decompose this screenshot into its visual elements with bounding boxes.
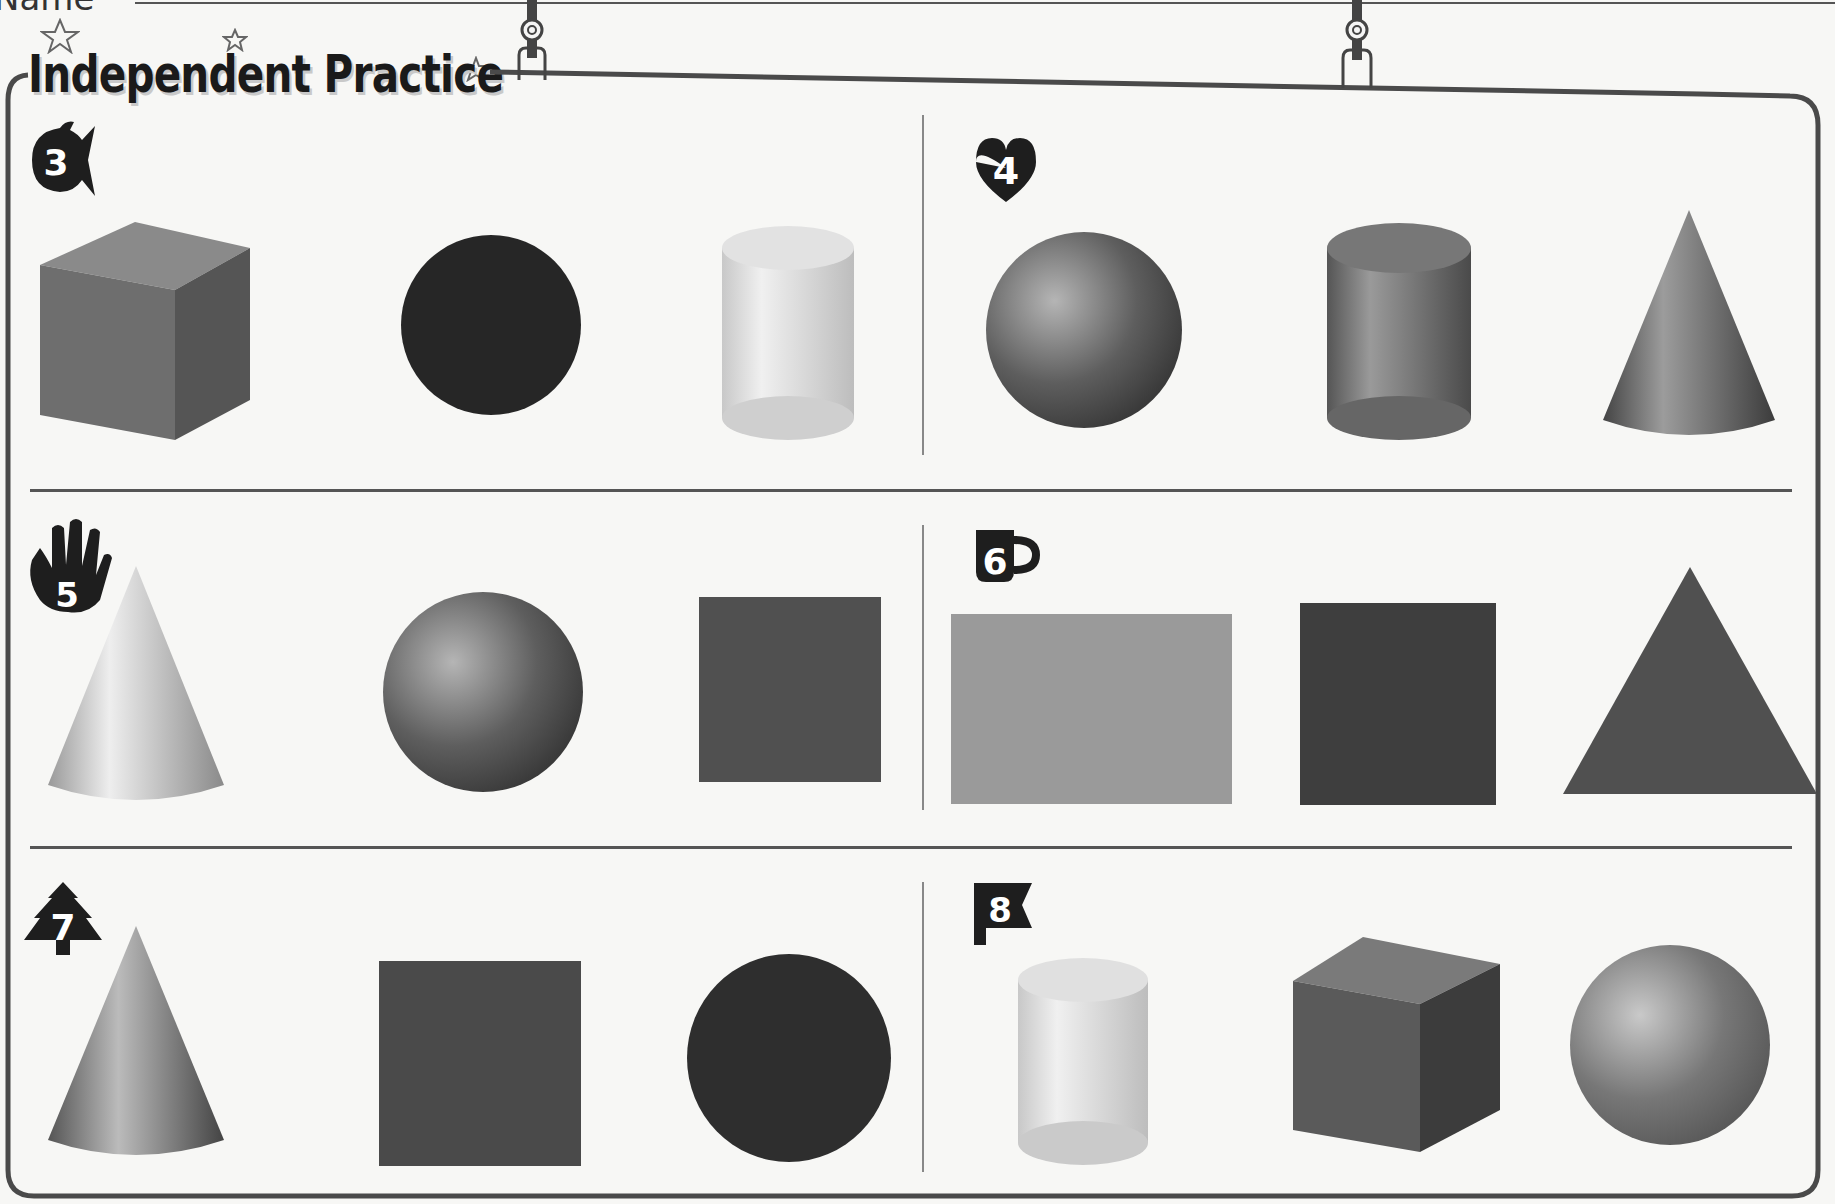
sphere-shape [1570, 945, 1770, 1145]
svg-text:8: 8 [988, 890, 1012, 930]
cube-shape [40, 222, 250, 440]
svg-text:5: 5 [55, 575, 79, 615]
cylinder-shape [1018, 958, 1148, 1165]
fish-icon: 3 [32, 122, 95, 196]
problem-6: 6 [951, 530, 1817, 805]
flag-icon: 8 [974, 883, 1032, 945]
problem-8: 8 [974, 883, 1770, 1165]
svg-text:4: 4 [993, 149, 1019, 193]
heart-icon: 4 [976, 138, 1036, 202]
circle-shape [687, 954, 891, 1162]
cylinder-shape [1327, 223, 1471, 440]
svg-text:3: 3 [43, 142, 68, 183]
svg-text:6: 6 [982, 541, 1007, 582]
mug-icon: 6 [976, 530, 1036, 582]
circle-shape [401, 235, 581, 415]
square-shape [699, 597, 881, 782]
square-shape [1300, 603, 1496, 805]
cone-shape [48, 926, 224, 1155]
problem-4: 4 [976, 138, 1775, 440]
problem-3: 3 [32, 122, 854, 440]
tree-icon: 7 [24, 882, 102, 955]
cube-shape [1293, 937, 1500, 1152]
problem-7: 7 [24, 882, 891, 1166]
problem-5: 5 [30, 519, 881, 800]
svg-text:7: 7 [50, 907, 75, 948]
sphere-shape [383, 592, 583, 792]
triangle-shape [1563, 567, 1817, 794]
rectangle-shape [951, 614, 1232, 804]
sphere-shape [986, 232, 1182, 428]
cone-shape [1603, 210, 1775, 435]
cylinder-shape [722, 226, 854, 440]
square-shape [379, 961, 581, 1166]
hand-icon: 5 [30, 519, 112, 615]
